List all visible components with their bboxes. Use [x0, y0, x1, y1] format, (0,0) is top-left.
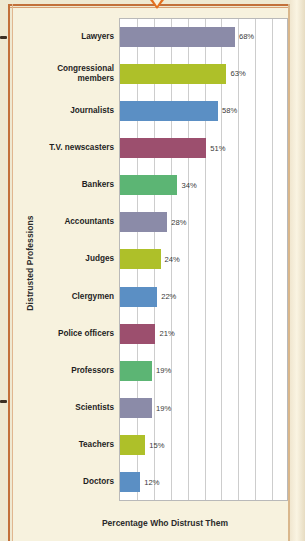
category-label: Scientists — [26, 403, 114, 413]
category-label: Bankers — [26, 180, 114, 190]
category-label: Congressionalmembers — [26, 64, 114, 84]
category-label: Lawyers — [26, 32, 114, 42]
category-label: Journalists — [26, 106, 114, 116]
bar — [120, 138, 206, 158]
bar — [120, 212, 167, 232]
bar-row: T.V. newscasters51% — [0, 129, 305, 166]
bar-value-label: 28% — [171, 218, 186, 227]
bar-row: Lawyers68% — [0, 18, 305, 55]
bar-row: Scientists19% — [0, 390, 305, 427]
bar-row: Clergymen22% — [0, 278, 305, 315]
bar-value-label: 22% — [161, 292, 176, 301]
bar — [120, 435, 145, 455]
bar-value-label: 15% — [149, 441, 164, 450]
bar — [120, 27, 235, 47]
bar-row: Bankers34% — [0, 167, 305, 204]
bar-chart: Distrusted Professions Lawyers68%Congres… — [0, 0, 305, 541]
bar-value-label: 63% — [230, 69, 245, 78]
category-label: Clergymen — [26, 292, 114, 302]
bar-value-label: 19% — [156, 404, 171, 413]
bar-value-label: 19% — [156, 366, 171, 375]
bar-value-label: 12% — [144, 478, 159, 487]
bar-row: Judges24% — [0, 241, 305, 278]
bar-row: Accountants28% — [0, 204, 305, 241]
bar — [120, 398, 152, 418]
category-label: Doctors — [26, 477, 114, 487]
textbook-figure-page: Distrusted Professions Lawyers68%Congres… — [0, 0, 305, 541]
bar — [120, 175, 177, 195]
category-label: Professors — [26, 366, 114, 376]
category-label: Accountants — [26, 217, 114, 227]
bar — [120, 249, 161, 269]
bar — [120, 361, 152, 381]
category-label: Teachers — [26, 440, 114, 450]
bar-row: Professors19% — [0, 352, 305, 389]
bar — [120, 287, 157, 307]
category-label: T.V. newscasters — [26, 143, 114, 153]
bar-value-label: 51% — [210, 144, 225, 153]
bar — [120, 101, 218, 121]
bar-value-label: 21% — [159, 329, 174, 338]
bar-row: Teachers15% — [0, 427, 305, 464]
bar-value-label: 34% — [181, 181, 196, 190]
bar-value-label: 68% — [239, 32, 254, 41]
bar-row: Congressionalmembers63% — [0, 55, 305, 92]
bar-row: Doctors12% — [0, 464, 305, 501]
bar — [120, 64, 226, 84]
bar — [120, 324, 155, 344]
category-label: Judges — [26, 254, 114, 264]
bar-value-label: 58% — [222, 106, 237, 115]
bar-rows: Lawyers68%Congressionalmembers63%Journal… — [0, 18, 305, 501]
category-label: Police officers — [26, 329, 114, 339]
x-axis-title: Percentage Who Distrust Them — [60, 518, 270, 528]
bar-row: Journalists58% — [0, 92, 305, 129]
bar-value-label: 24% — [165, 255, 180, 264]
bar-row: Police officers21% — [0, 315, 305, 352]
bar — [120, 472, 140, 492]
